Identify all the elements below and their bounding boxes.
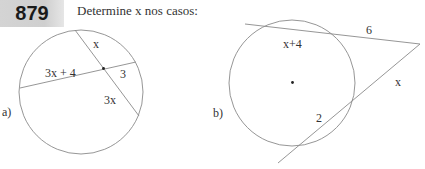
label-a-3x-plus-4: 3x + 4: [45, 66, 76, 80]
label-b-6: 6: [366, 23, 372, 37]
label-b-x-plus-4: x+4: [283, 37, 302, 51]
label-b-2: 2: [316, 111, 322, 125]
figure-a-label: a): [2, 105, 11, 119]
figure-a: x 3x + 4 3 3x a): [2, 30, 143, 154]
label-a-x: x: [93, 37, 99, 51]
intersection-point-a: [102, 67, 105, 70]
label-b-x: x: [395, 75, 401, 89]
center-point-b: [291, 81, 294, 84]
geometry-figures: x 3x + 4 3 3x a) x+4 6 x 2 b): [0, 0, 425, 169]
label-a-3: 3: [120, 67, 126, 81]
secant-b-upper: [245, 24, 420, 44]
label-a-3x: 3x: [104, 93, 116, 107]
chord-a-2: [20, 62, 136, 88]
figure-b-label: b): [213, 106, 223, 120]
figure-b: x+4 6 x 2 b): [213, 20, 420, 163]
secant-b-lower: [278, 44, 420, 163]
circle-a: [19, 30, 143, 154]
